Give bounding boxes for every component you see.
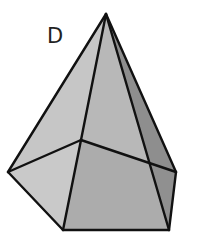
figure-label: D bbox=[47, 26, 63, 47]
pyramid-figure bbox=[0, 0, 201, 250]
